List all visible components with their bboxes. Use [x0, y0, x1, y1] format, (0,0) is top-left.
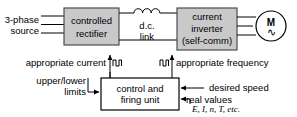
appropriate-current-text: appropriate current [26, 57, 106, 68]
pulse-train-icon-right [160, 60, 169, 66]
inductor-coil-icon [134, 9, 160, 13]
motor-ac-glyph: ∿ [267, 26, 276, 38]
current-inverter-label-3: (self-comm) [177, 35, 237, 46]
real-values-vars-text: E, I, n, T, etc. [192, 104, 240, 114]
upper-lower-limits-input-line [88, 78, 99, 92]
dc-link-label-line2: link [140, 31, 154, 42]
control-firing-unit-label: control and [101, 83, 179, 94]
rectifier-label-line1: controlled [71, 15, 112, 26]
appropriate-frequency-text: appropriate frequency [176, 57, 268, 68]
appropriate-frequency-label: appropriate frequency [176, 57, 268, 68]
controlled-rectifier-label-2: rectifier [64, 28, 119, 39]
desired-speed-text: desired speed [209, 82, 269, 93]
real-values-variables: E, I, n, T, etc. [192, 104, 240, 114]
rectifier-label-line2: rectifier [76, 28, 107, 39]
control-unit-line1: control and [116, 83, 163, 94]
three-phase-source-label-2: source [0, 25, 39, 36]
three-phase-source-label: 3-phase [0, 14, 39, 25]
appropriate-current-label: appropriate current [10, 57, 106, 68]
upper-lower-limits-label: upper/lower [14, 75, 86, 86]
current-inverter-label-2: inverter [177, 23, 237, 34]
motor-feed-lines [237, 17, 256, 35]
desired-speed-label: desired speed [209, 82, 269, 93]
controlled-rectifier-label: controlled [64, 15, 119, 26]
inverter-label-line3: (self-comm) [182, 35, 232, 46]
three-phase-source-lines [41, 16, 64, 33]
upper-lower-line2: limits [64, 86, 86, 97]
controlled-rectifier-block [64, 8, 119, 45]
source-label-line2: source [10, 25, 39, 36]
dc-link-label-2: link [126, 31, 168, 42]
control-unit-line2: firing unit [121, 94, 160, 105]
current-inverter-label: current [177, 11, 237, 22]
source-label-line1: 3-phase [5, 14, 39, 25]
motor-ac-symbol-label: ∿ [256, 26, 286, 39]
upper-lower-limits-label-2: limits [14, 86, 86, 97]
dc-link-label: d.c. [126, 20, 168, 31]
dc-link-label-line1: d.c. [139, 20, 154, 31]
control-firing-unit-label-2: firing unit [101, 94, 179, 105]
inverter-label-line2: inverter [191, 23, 223, 34]
pulse-train-icon-left [113, 60, 122, 66]
upper-lower-line1: upper/lower [36, 75, 86, 86]
block-diagram: 3-phase source controlled rectifier d.c.… [0, 0, 297, 117]
inverter-label-line1: current [192, 11, 222, 22]
